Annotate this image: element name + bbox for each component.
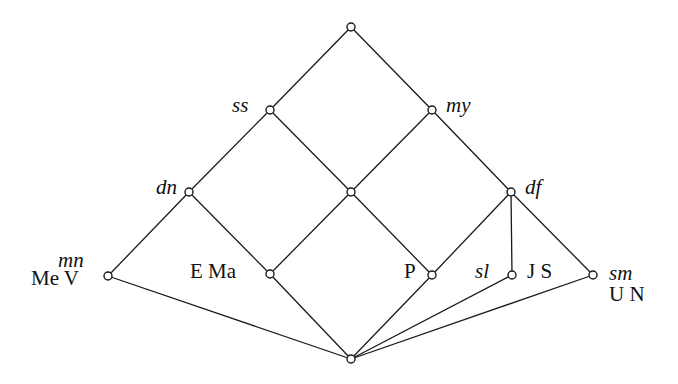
edge-my-df <box>432 110 511 192</box>
label-dn: dn <box>156 177 177 198</box>
lattice-diagram <box>0 0 678 384</box>
edge-dn-mn <box>108 192 189 276</box>
edge-sl-bottom <box>351 275 512 359</box>
label-df: df <box>525 177 541 198</box>
node-sl <box>508 271 516 279</box>
label-ss: ss <box>232 95 248 116</box>
node-bottom <box>347 355 355 363</box>
edge-top-my <box>351 27 432 110</box>
label-u-n: U N <box>609 284 645 305</box>
edge-p-bottom <box>351 275 432 359</box>
edge-df-p <box>432 192 511 275</box>
node-sm <box>589 271 597 279</box>
edge-df-sl <box>511 192 512 275</box>
node-ss <box>266 106 274 114</box>
edge-center-ema <box>270 192 351 274</box>
node-ema <box>266 270 274 278</box>
label-e-ma: E Ma <box>190 261 236 282</box>
label-sl: sl <box>475 261 489 282</box>
node-my <box>428 106 436 114</box>
label-sm: sm <box>609 263 632 284</box>
node-df <box>507 188 515 196</box>
node-top <box>347 23 355 31</box>
node-p <box>428 271 436 279</box>
label-me-v: Me V <box>31 268 79 289</box>
label-j-s: J S <box>527 261 552 282</box>
label-p: P <box>404 261 416 282</box>
nodes-group <box>104 23 597 363</box>
edge-ss-dn <box>189 110 270 192</box>
edge-ss-center <box>270 110 351 192</box>
node-center <box>347 188 355 196</box>
label-my: my <box>446 95 471 116</box>
edge-center-p <box>351 192 432 275</box>
edge-ema-bottom <box>270 274 351 359</box>
edge-my-center <box>351 110 432 192</box>
edge-top-ss <box>270 27 351 110</box>
edge-mn-bottom <box>108 276 351 359</box>
edge-sm-bottom <box>351 275 593 359</box>
node-dn <box>185 188 193 196</box>
node-mn <box>104 272 112 280</box>
